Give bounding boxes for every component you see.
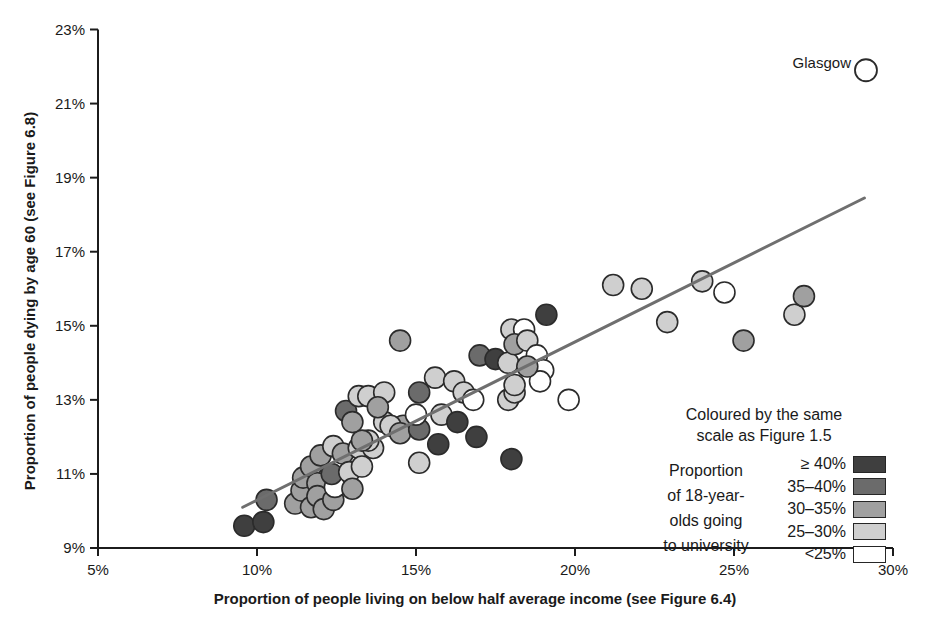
data-point xyxy=(501,449,522,470)
legend-row: ≥ 40% xyxy=(770,453,886,476)
legend-title-line2: scale as Figure 1.5 xyxy=(642,425,886,446)
x-tick-label: 5% xyxy=(87,561,109,578)
legend-swatch xyxy=(853,501,886,518)
data-point xyxy=(409,452,430,473)
legend-side-line3: olds going xyxy=(642,508,770,533)
scatter-figure: Proportion of people dying by age 60 (se… xyxy=(0,0,931,625)
data-point xyxy=(342,412,363,433)
legend-swatch xyxy=(853,478,886,495)
data-point xyxy=(351,456,372,477)
x-tick-label: 20% xyxy=(560,561,590,578)
data-point xyxy=(733,330,754,351)
x-axis-title: Proportion of people living on below hal… xyxy=(214,590,737,607)
data-point xyxy=(253,512,274,533)
data-point xyxy=(466,426,487,447)
data-point xyxy=(784,304,805,325)
legend-row: 30–35% xyxy=(770,498,886,521)
data-point xyxy=(390,330,411,351)
y-tick-label: 17% xyxy=(55,243,85,260)
glasgow-label: Glasgow xyxy=(793,54,852,71)
data-point xyxy=(558,389,579,410)
legend-title-line1: Coloured by the same xyxy=(642,404,886,425)
legend-rows: ≥ 40% 35–40% 30–35% 25–30% <25% xyxy=(770,453,886,566)
y-tick-label: 11% xyxy=(56,465,85,482)
legend-side-line1: Proportion xyxy=(642,458,770,483)
legend-swatch xyxy=(853,456,886,473)
legend-side-label: Proportion of 18-year- olds going to uni… xyxy=(642,453,770,566)
y-tick-label: 21% xyxy=(55,95,85,112)
data-point xyxy=(603,275,624,296)
legend-side-line2: of 18-year- xyxy=(642,483,770,508)
legend: Coloured by the same scale as Figure 1.5… xyxy=(642,404,886,566)
legend-row: 25–30% xyxy=(770,521,886,544)
data-point xyxy=(428,434,449,455)
legend-row: <25% xyxy=(770,543,886,566)
data-point xyxy=(234,515,255,536)
data-point xyxy=(409,382,430,403)
legend-label: 35–40% xyxy=(787,478,846,496)
data-point xyxy=(504,375,525,396)
data-point xyxy=(714,282,735,303)
data-point xyxy=(631,278,652,299)
data-point xyxy=(793,286,814,307)
x-tick-label: 15% xyxy=(401,561,431,578)
legend-label: 30–35% xyxy=(787,500,846,518)
data-point xyxy=(657,312,678,333)
y-tick-label: 15% xyxy=(55,317,85,334)
data-point xyxy=(425,367,446,388)
legend-side-line4: to university xyxy=(642,533,770,558)
data-point xyxy=(367,397,388,418)
glasgow-point xyxy=(855,59,877,81)
y-tick-label: 13% xyxy=(55,391,85,408)
legend-label: 25–30% xyxy=(787,523,846,541)
legend-label: <25% xyxy=(805,545,846,563)
legend-row: 35–40% xyxy=(770,476,886,499)
data-point xyxy=(536,304,557,325)
y-tick-label: 23% xyxy=(55,21,85,38)
y-tick-label: 19% xyxy=(55,169,85,186)
y-tick-label: 9% xyxy=(63,539,85,556)
legend-swatch xyxy=(853,546,886,563)
data-point xyxy=(447,412,468,433)
data-point xyxy=(342,478,363,499)
x-tick-label: 10% xyxy=(242,561,272,578)
legend-title: Coloured by the same scale as Figure 1.5 xyxy=(642,404,886,446)
legend-label: ≥ 40% xyxy=(801,455,846,473)
legend-body: Proportion of 18-year- olds going to uni… xyxy=(642,453,886,566)
legend-swatch xyxy=(853,523,886,540)
